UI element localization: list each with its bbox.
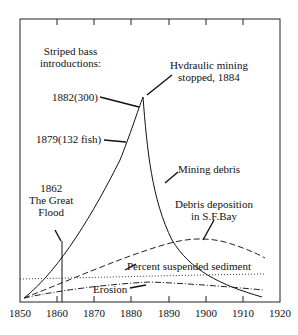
label-suspended-sediment: Percent suspended sediment: [127, 260, 251, 272]
label-debris-deposition: Debris deposition in S.F.Bay: [175, 198, 253, 222]
bass-title: Striped bass introductions:: [40, 45, 101, 69]
x-tick-1860: 1860: [46, 307, 68, 319]
x-tick-1910: 1910: [232, 307, 254, 319]
flood-line2: The Great: [29, 194, 73, 206]
deposition-line2: in S.F.Bay: [175, 210, 253, 222]
x-tick-1890: 1890: [158, 307, 180, 319]
x-tick-1870: 1870: [83, 307, 105, 319]
label-mining-debris: Mining debris: [178, 163, 240, 175]
mining-stopped-line2: stopped, 1884: [170, 71, 248, 83]
flood-line3: Flood: [29, 206, 73, 218]
x-tick-1900: 1900: [195, 307, 217, 319]
label-erosion: Erosion: [93, 283, 127, 295]
top-ticks: [57, 19, 243, 25]
x-tick-1920: 1920: [269, 307, 291, 319]
annotation-great-flood: 1862 The Great Flood: [29, 182, 73, 218]
flood-line1: 1862: [29, 182, 73, 194]
series-erosion: [24, 282, 264, 298]
annotation-mining-stopped: Hvdraulic mining stopped, 1884: [170, 59, 248, 83]
bass-title-line2: introductions:: [40, 57, 101, 69]
annotation-leaders: [55, 75, 214, 288]
bottom-ticks: [57, 296, 243, 302]
x-tick-1850: 1850: [9, 307, 31, 319]
series-suspended-sediment: [20, 274, 264, 279]
bass-title-line1: Striped bass: [40, 45, 101, 57]
annotation-1882: 1882(300): [52, 91, 98, 103]
x-tick-1880: 1880: [120, 307, 142, 319]
mining-stopped-line1: Hvdraulic mining: [170, 59, 248, 71]
annotation-1879: 1879(132 fish): [36, 133, 101, 145]
deposition-line1: Debris deposition: [175, 198, 253, 210]
